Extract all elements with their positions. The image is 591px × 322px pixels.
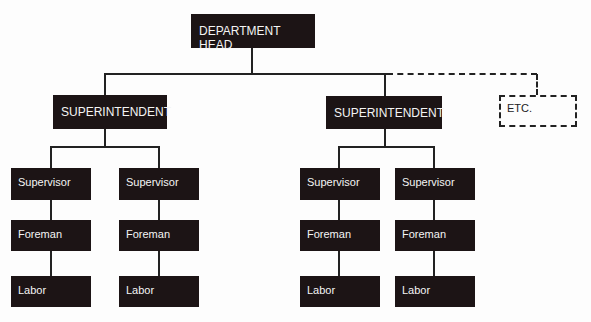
labor-box: Labor bbox=[395, 276, 475, 307]
superintendent-box: SUPERINTENDENT bbox=[53, 95, 167, 129]
sup1-drop bbox=[104, 74, 106, 96]
labor-box: Labor bbox=[300, 276, 380, 307]
chain-line bbox=[433, 146, 435, 278]
foreman-box: Foreman bbox=[395, 220, 475, 251]
chain-line bbox=[338, 146, 340, 278]
sup2-down bbox=[384, 128, 386, 148]
superintendent-box: SUPERINTENDENT bbox=[326, 96, 442, 129]
supervisor-box: Supervisor bbox=[11, 168, 91, 200]
etc-dashed-branch bbox=[387, 73, 537, 75]
department-head-box: DEPARTMENT HEAD bbox=[191, 14, 315, 48]
labor-box: Labor bbox=[11, 276, 91, 307]
sup1-branch bbox=[50, 146, 160, 148]
supervisor-box: Supervisor bbox=[119, 168, 199, 200]
head-connector bbox=[251, 47, 253, 75]
chain-line bbox=[50, 146, 52, 278]
sup1-down bbox=[104, 128, 106, 148]
etc-box: ETC. bbox=[499, 95, 577, 127]
main-branch-line bbox=[104, 73, 387, 75]
labor-box: Labor bbox=[119, 276, 199, 307]
foreman-box: Foreman bbox=[11, 220, 91, 251]
etc-dashed-drop bbox=[536, 74, 538, 95]
supervisor-box: Supervisor bbox=[300, 168, 380, 200]
chain-line bbox=[158, 146, 160, 278]
sup2-branch bbox=[338, 146, 435, 148]
foreman-box: Foreman bbox=[119, 220, 199, 251]
foreman-box: Foreman bbox=[300, 220, 380, 251]
supervisor-box: Supervisor bbox=[395, 168, 475, 200]
sup2-drop bbox=[384, 74, 386, 96]
